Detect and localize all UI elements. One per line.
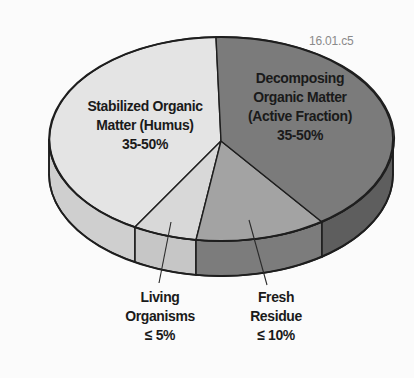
label-percentage: 35-50% <box>237 125 363 144</box>
label-decomposing-organic-matter: Decomposing Organic Matter (Active Fract… <box>237 68 363 144</box>
pie-chart-figure: 16.01.c5 Stabilized Organic Matter (Humu… <box>0 0 414 378</box>
label-line: Stabilized Organic <box>69 96 222 115</box>
label-line: Residue <box>236 306 317 325</box>
label-living-organisms: Living Organisms ≤ 5% <box>111 287 210 344</box>
label-stabilized-organic-matter: Stabilized Organic Matter (Humus) 35-50% <box>69 96 222 153</box>
label-line: Organic Matter <box>237 87 363 106</box>
label-fresh-residue: Fresh Residue ≤ 10% <box>236 287 317 344</box>
figure-id-label: 16.01.c5 <box>309 34 353 48</box>
label-line: Decomposing <box>237 68 363 87</box>
label-percentage: 35-50% <box>69 134 222 153</box>
label-line: (Active Fraction) <box>237 106 363 125</box>
label-line: Organisms <box>111 306 210 325</box>
label-percentage: ≤ 10% <box>236 325 317 344</box>
label-percentage: ≤ 5% <box>111 325 210 344</box>
label-line: Living <box>111 287 210 306</box>
label-line: Matter (Humus) <box>69 115 222 134</box>
label-line: Fresh <box>236 287 317 306</box>
